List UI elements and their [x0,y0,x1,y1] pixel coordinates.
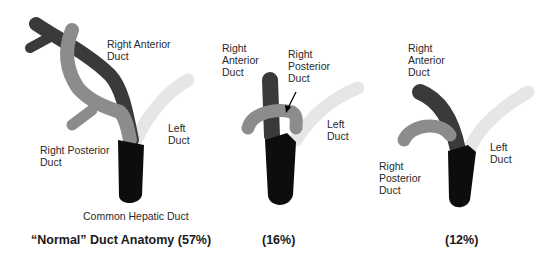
label-left-duct: Left Duct [327,118,349,142]
right-anterior-branch-shape [30,36,52,48]
right-posterior-branch-shape [72,110,92,125]
caption-12-percent: (12%) [445,233,478,247]
caption-16-percent: (16%) [262,233,295,247]
label-common-hepatic-duct: Common Hepatic Duct [83,210,189,222]
label-left-duct: Left Duct [168,122,190,146]
label-right-anterior-duct: Right Anterior Duct [107,38,171,62]
common-hepatic-duct-shape [448,145,476,207]
right-posterior-duct-shape [404,126,450,140]
label-right-posterior-duct: Right Posterior Duct [379,160,421,196]
left-duct-shape [470,92,528,148]
label-right-posterior-duct: Right Posterior Duct [288,48,330,84]
label-right-anterior-duct: Right Anterior Duct [222,42,259,78]
label-right-posterior-duct: Right Posterior Duct [40,144,109,168]
label-left-duct: Left Duct [490,141,512,165]
common-hepatic-duct-shape [118,140,144,203]
caption-normal-anatomy: “Normal” Duct Anatomy (57%) [31,233,211,247]
panel-16-percent [248,80,358,205]
duct-anatomy-illustration [0,0,555,263]
label-right-anterior-duct: Right Anterior Duct [408,42,445,78]
common-hepatic-duct-shape [265,133,296,205]
